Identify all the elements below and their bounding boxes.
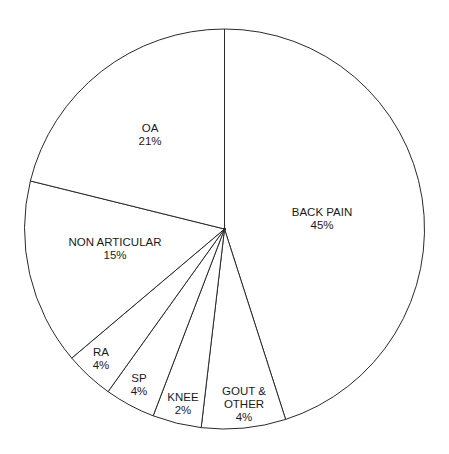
slice-value: 4% (93, 359, 110, 371)
slice-value: 2% (175, 404, 192, 416)
slice-value: 4% (131, 385, 148, 397)
slice-name: SP (131, 372, 147, 384)
pie-center-point (223, 227, 226, 230)
slice-label-oa: OA21% (138, 122, 161, 147)
slice-label-ra: RA4% (93, 346, 110, 371)
slice-name: KNEE (167, 391, 199, 403)
slice-value: 45% (310, 219, 333, 231)
slice-name: NON ARTICULAR (68, 236, 161, 248)
pie-chart-svg: BACK PAIN45%GOUT &OTHER4%KNEE2%SP4%RA4%N… (0, 0, 449, 454)
pie-chart: BACK PAIN45%GOUT &OTHER4%KNEE2%SP4%RA4%N… (0, 0, 449, 454)
pie-slices (25, 29, 425, 429)
slice-name: RA (93, 346, 109, 358)
slice-name: OA (142, 122, 159, 134)
slice-value: 21% (138, 135, 161, 147)
slice-name: OTHER (224, 398, 264, 410)
slice-value: 4% (236, 411, 253, 423)
slice-label-sp: SP4% (131, 372, 148, 397)
slice-name: BACK PAIN (292, 206, 353, 218)
slice-name: GOUT & (222, 385, 266, 397)
slice-value: 15% (103, 249, 126, 261)
